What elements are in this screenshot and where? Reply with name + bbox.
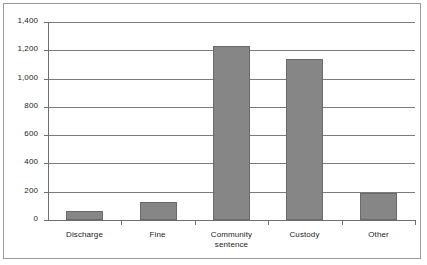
- x-axis-label: Fine: [121, 230, 194, 240]
- x-axis-label-line: Discharge: [48, 230, 121, 240]
- x-axis-label-line: sentence: [195, 240, 268, 250]
- y-axis-tick-mark: [44, 135, 48, 136]
- x-axis-tick-mark: [195, 221, 196, 225]
- y-axis-tick-label: 1,000: [4, 73, 38, 82]
- y-axis-tick-label: 200: [4, 186, 38, 195]
- bar: [140, 202, 177, 220]
- x-axis-label: Other: [342, 230, 415, 240]
- y-axis-tick-label: 1,200: [4, 44, 38, 53]
- gridline: [48, 22, 415, 23]
- bar: [213, 46, 250, 220]
- x-axis-label-line: Fine: [121, 230, 194, 240]
- y-axis-tick-label: 400: [4, 157, 38, 166]
- y-axis-tick-label: 800: [4, 101, 38, 110]
- y-axis-tick-mark: [44, 107, 48, 108]
- x-axis-line: [48, 220, 416, 221]
- y-axis-tick-mark: [44, 22, 48, 23]
- y-axis-tick-mark: [44, 220, 48, 221]
- x-axis-label: Custody: [268, 230, 341, 240]
- y-axis-tick-label: 0: [4, 214, 38, 223]
- bar: [286, 59, 323, 220]
- x-axis-label-line: Community: [195, 230, 268, 240]
- x-axis-tick-mark: [121, 221, 122, 225]
- x-axis-tick-mark: [268, 221, 269, 225]
- chart-frame: DischargeFineCommunitysentenceCustodyOth…: [3, 3, 421, 259]
- x-axis-tick-mark: [342, 221, 343, 225]
- y-axis-tick-mark: [44, 163, 48, 164]
- bar: [360, 193, 397, 220]
- y-axis-tick-mark: [44, 79, 48, 80]
- x-axis-tick-mark: [415, 221, 416, 225]
- bar: [66, 211, 103, 220]
- x-axis-label-line: Other: [342, 230, 415, 240]
- y-axis-tick-mark: [44, 50, 48, 51]
- y-axis-line: [48, 22, 49, 221]
- y-axis-tick-labels: 02004006008001,0001,2001,400: [0, 0, 38, 265]
- x-axis-label: Communitysentence: [195, 230, 268, 250]
- y-axis-tick-label: 1,400: [4, 16, 38, 25]
- x-axis-label: Discharge: [48, 230, 121, 240]
- y-axis-tick-label: 600: [4, 129, 38, 138]
- y-axis-tick-mark: [44, 192, 48, 193]
- x-axis-label-line: Custody: [268, 230, 341, 240]
